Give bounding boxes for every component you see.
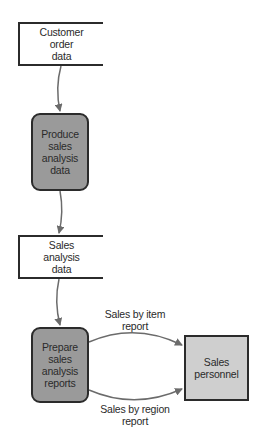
process-produce-sales-analysis-data: Produce sales analysis data [31, 113, 89, 191]
external-entity-sales-personnel: Sales personnel [184, 335, 249, 401]
flow-arrow-sales-by-region [89, 389, 182, 400]
process-label: Produce sales analysis data [41, 128, 79, 176]
flow-label-sales-by-item: Sales by item report [95, 308, 175, 332]
process-label: Prepare sales analysis reports [42, 341, 78, 389]
flow-arrow-customer-to-produce [58, 66, 61, 111]
data-store-label: Sales analysis data [43, 239, 79, 275]
data-store-customer-order-data: Customer order data [18, 22, 103, 66]
flow-arrow-sales-data-to-prepare [57, 279, 60, 325]
data-store-label: Customer order data [40, 26, 84, 62]
entity-label: Sales personnel [194, 356, 238, 380]
flow-label-sales-by-region: Sales by region report [90, 403, 180, 427]
data-flow-diagram: Customer order data Produce sales analys… [0, 0, 261, 444]
flow-arrow-sales-by-item [89, 333, 182, 345]
process-prepare-sales-analysis-reports: Prepare sales analysis reports [31, 327, 89, 403]
data-store-sales-analysis-data: Sales analysis data [18, 235, 103, 279]
flow-arrow-produce-to-sales-data [59, 191, 62, 233]
